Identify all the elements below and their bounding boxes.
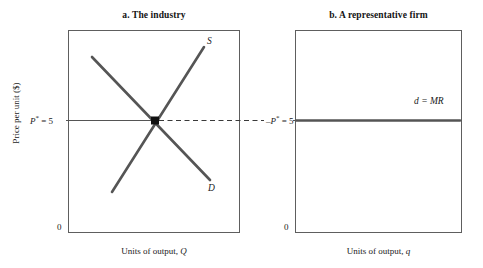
x-axis-label-firm-text: Units of output,: [347, 246, 406, 256]
firm-demand-mr-label: d = MR: [414, 96, 444, 106]
equilibrium-point-marker: [151, 117, 159, 125]
price-value-firm: = 5: [280, 116, 294, 126]
price-value-industry: = 5: [39, 116, 53, 126]
supply-curve-label: S: [207, 36, 212, 46]
economics-figure: a. The industry b. A representative firm…: [0, 0, 483, 268]
x-axis-label-firm: Units of output, q: [295, 246, 462, 256]
curves-layer: [0, 0, 483, 268]
x-axis-label-industry-variable: Q: [180, 246, 187, 256]
y-axis-label-industry: Price per unit ($): [11, 65, 21, 161]
demand-curve-label: D: [208, 183, 215, 193]
origin-label-industry: 0: [57, 222, 62, 232]
price-label-industry: P* = 5: [30, 114, 53, 126]
x-axis-label-industry: Units of output, Q: [68, 246, 240, 256]
origin-label-firm: 0: [284, 222, 289, 232]
x-axis-label-firm-variable: q: [406, 246, 411, 256]
x-axis-label-industry-text: Units of output,: [121, 246, 180, 256]
price-label-firm: –P* = 5: [266, 114, 294, 126]
